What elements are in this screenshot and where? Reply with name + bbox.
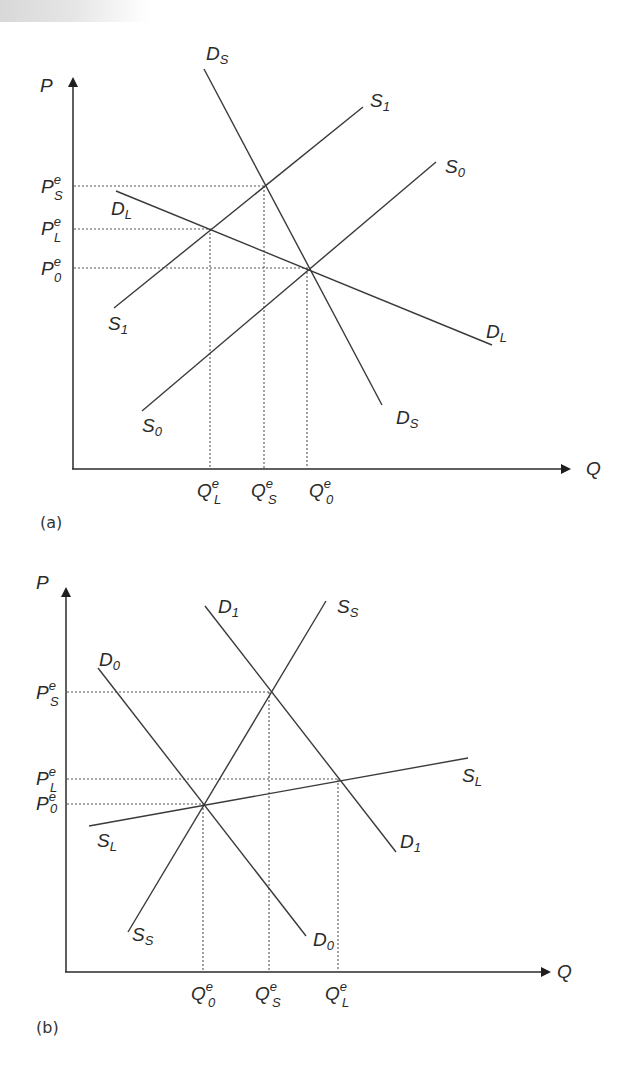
demand-0-curve-b — [98, 668, 306, 936]
price-label-l-a: PeL — [41, 214, 61, 245]
label-ss-bottom-b: SS — [132, 924, 154, 948]
price-label-0-a: Pe0 — [41, 254, 62, 285]
price-label-0-b: Pe0 — [36, 789, 58, 816]
quantity-label-s-b: QeS — [255, 979, 281, 1010]
supply-0-curve-a — [142, 162, 436, 411]
supply-short-run-curve-b — [128, 601, 326, 932]
label-d1-top-b: D1 — [218, 596, 239, 620]
quantity-label-s-a: QeS — [251, 476, 277, 507]
panel-b: P Q D1 D1 D0 D0 SS SS SL SL PeS PeL Pe0 … — [36, 572, 572, 1037]
quantity-label-l-b: QeL — [325, 979, 349, 1010]
panel-label-b: (b) — [36, 1018, 59, 1037]
price-label-s-b: PeS — [36, 678, 59, 709]
label-s0-top-a: S0 — [445, 156, 466, 180]
quantity-label-0-a: Qe0 — [309, 476, 334, 507]
demand-long-run-curve-a — [116, 191, 492, 345]
x-axis-label-a: Q — [586, 458, 601, 479]
y-axis-label-a: P — [40, 75, 53, 96]
label-ss-top-b: SS — [337, 596, 359, 620]
label-s0-bottom-a: S0 — [142, 415, 163, 439]
label-s1-bottom-a: S1 — [108, 313, 128, 337]
label-d1-bottom-b: D1 — [400, 831, 421, 855]
x-axis-label-b: Q — [557, 961, 572, 982]
label-d0-bottom-b: D0 — [313, 929, 335, 953]
label-sl-left-b: SL — [97, 830, 117, 854]
quantity-label-l-a: QeL — [197, 476, 221, 507]
demand-short-run-curve-a — [204, 69, 382, 405]
supply-1-curve-a — [114, 107, 363, 308]
y-axis-label-b: P — [36, 572, 49, 593]
price-label-s-a: PeS — [41, 172, 63, 203]
quantity-label-0-b: Qe0 — [191, 979, 216, 1010]
supply-long-run-curve-b — [89, 758, 468, 826]
label-ds-bottom-a: DS — [396, 407, 419, 431]
panel-label-a: (a) — [40, 513, 62, 532]
label-dl-right-a: DL — [486, 321, 507, 345]
label-d0-top-b: D0 — [99, 649, 121, 673]
label-sl-right-b: SL — [462, 765, 482, 789]
label-dl-left-a: DL — [111, 198, 132, 222]
diagram-canvas: P Q DS DS DL DL S1 S1 S0 S0 PeS PeL Pe0 … — [0, 0, 624, 1073]
panel-a: P Q DS DS DL DL S1 S1 S0 S0 PeS PeL Pe0 … — [40, 43, 601, 532]
label-s1-top-a: S1 — [370, 90, 390, 114]
label-ds-top-a: DS — [206, 43, 229, 67]
